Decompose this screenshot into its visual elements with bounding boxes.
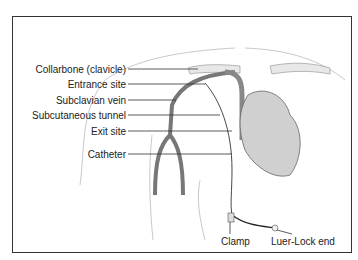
subclavian-vein — [155, 72, 235, 195]
subcutaneous-tunnel — [205, 83, 232, 215]
label-subclavian-vein: Subclavian vein — [56, 95, 126, 106]
heart — [240, 91, 300, 176]
label-exit-site: Exit site — [91, 126, 126, 137]
catheter-external — [232, 215, 275, 228]
label-entrance-site: Entrance site — [68, 79, 126, 90]
label-clamp: Clamp — [221, 236, 250, 247]
label-collarbone: Collarbone (clavicle) — [35, 64, 126, 75]
label-luer-lock-end: Luer-Lock end — [271, 236, 335, 247]
label-catheter: Catheter — [88, 149, 126, 160]
central-line-illustration — [0, 0, 358, 260]
label-subcutaneous-tunnel: Subcutaneous tunnel — [32, 110, 126, 121]
clamp-icon — [228, 213, 234, 222]
